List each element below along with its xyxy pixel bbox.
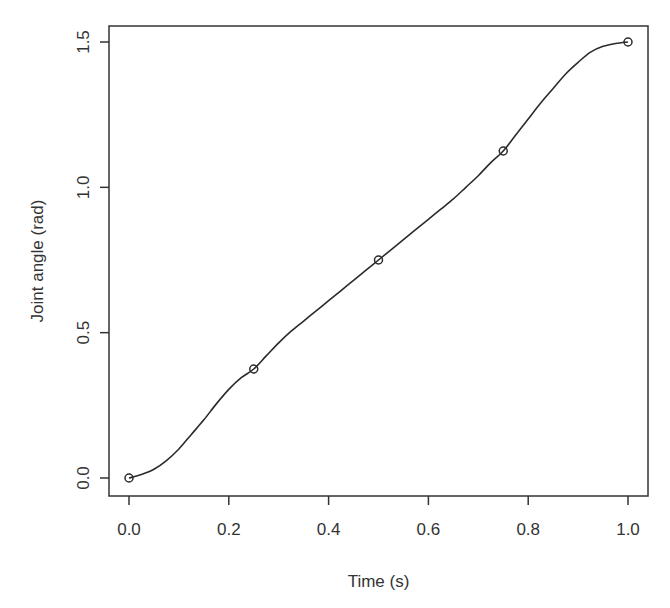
y-tick-label: 0.0 bbox=[74, 466, 93, 490]
x-tick-label: 0.8 bbox=[516, 520, 540, 539]
trajectory-line bbox=[129, 42, 628, 478]
y-tick-label: 1.5 bbox=[74, 30, 93, 54]
x-tick-label: 1.0 bbox=[616, 520, 640, 539]
x-axis: 0.00.20.40.60.81.0 bbox=[117, 496, 640, 539]
x-tick-label: 0.6 bbox=[417, 520, 441, 539]
y-axis-title: Joint angle (rad) bbox=[28, 200, 47, 323]
x-tick-label: 0.4 bbox=[317, 520, 341, 539]
y-tick-label: 1.0 bbox=[74, 176, 93, 200]
x-axis-title: Time (s) bbox=[348, 572, 410, 591]
x-tick-label: 0.0 bbox=[117, 520, 141, 539]
y-tick-label: 0.5 bbox=[74, 321, 93, 345]
line-chart: 0.00.20.40.60.81.0 0.00.51.01.5 Time (s)… bbox=[0, 0, 670, 608]
x-tick-label: 0.2 bbox=[217, 520, 241, 539]
y-axis: 0.00.51.01.5 bbox=[74, 30, 109, 490]
